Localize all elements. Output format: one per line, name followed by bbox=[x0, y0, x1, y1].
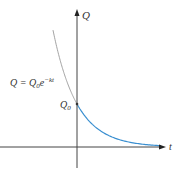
x-axis-arrow bbox=[159, 145, 166, 150]
curve-negative-t bbox=[53, 30, 77, 104]
curve-decay bbox=[77, 104, 161, 146]
y-axis-arrow bbox=[75, 9, 80, 16]
y-axis-label: Q bbox=[82, 9, 90, 21]
equation-label: Q = Q0e−kt bbox=[10, 76, 55, 90]
q0-label: Q0 bbox=[60, 99, 71, 112]
q0-point bbox=[76, 103, 79, 106]
x-axis-label: t bbox=[169, 141, 172, 152]
chart: Q t Q = Q0e−kt Q0 bbox=[0, 0, 176, 173]
